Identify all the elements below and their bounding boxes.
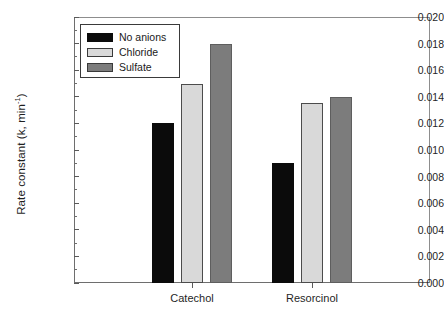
y-axis-label-close: ) — [15, 93, 27, 97]
y-tick-minor — [74, 30, 77, 31]
y-tick-major — [74, 17, 79, 18]
y-tick-label: 0.014 — [400, 91, 444, 103]
legend-item-1: Chloride — [87, 45, 173, 59]
x-tick — [312, 283, 313, 288]
figure-bar-chart: Rate constant (k, min-1) 0.0200.0180.016… — [0, 0, 444, 322]
legend-item-0: No anions — [87, 30, 173, 44]
y-tick-major — [74, 123, 79, 124]
y-tick-minor — [74, 136, 77, 137]
y-tick-major — [74, 203, 79, 204]
y-tick-minor — [74, 243, 77, 244]
legend-swatch-icon-chloride — [87, 48, 113, 57]
y-tick-label: 0.012 — [400, 117, 444, 129]
y-tick-label: 0.020 — [400, 11, 444, 23]
y-tick-major — [74, 70, 79, 71]
bar-catechol-sulfate — [210, 44, 232, 283]
y-tick-major — [74, 43, 79, 44]
legend: No anions Chloride Sulfate — [80, 24, 180, 78]
y-tick-major — [74, 283, 79, 284]
bar-catechol-chloride — [181, 84, 203, 284]
y-tick-label: 0.008 — [400, 171, 444, 183]
x-category-label-catechol: Catechol — [170, 292, 213, 304]
y-tick-minor — [74, 110, 77, 111]
y-tick-label: 0.018 — [400, 38, 444, 50]
bar-resorcinol-chloride — [301, 103, 323, 283]
x-tick — [192, 283, 193, 288]
y-tick-minor — [74, 83, 77, 84]
y-tick-label: 0.016 — [400, 64, 444, 76]
legend-label-chloride: Chloride — [119, 46, 158, 58]
x-category-label-resorcinol: Resorcinol — [286, 292, 338, 304]
y-tick-label: 0.000 — [400, 277, 444, 289]
y-tick-major — [74, 176, 79, 177]
bar-resorcinol-sulfate — [330, 97, 352, 283]
bar-resorcinol-no-anions — [272, 163, 294, 283]
legend-item-2: Sulfate — [87, 60, 173, 74]
y-tick-minor — [74, 189, 77, 190]
y-tick-major — [74, 96, 79, 97]
y-tick-label: 0.004 — [400, 224, 444, 236]
y-tick-minor — [74, 216, 77, 217]
bar-catechol-no-anions — [152, 123, 174, 283]
y-tick-minor — [74, 269, 77, 270]
y-axis-label: Rate constant (k, min-1) — [15, 49, 27, 259]
legend-label-sulfate: Sulfate — [119, 61, 152, 73]
y-axis-label-exponent: -1 — [13, 97, 22, 104]
y-tick-major — [74, 229, 79, 230]
y-tick-label: 0.002 — [400, 250, 444, 262]
y-tick-label: 0.006 — [400, 197, 444, 209]
y-axis-label-base: Rate constant (k, min — [15, 104, 27, 215]
legend-swatch-icon-sulfate — [87, 63, 113, 72]
legend-swatch-icon-no-anions — [87, 33, 113, 42]
y-tick-major — [74, 256, 79, 257]
y-tick-minor — [74, 163, 77, 164]
legend-label-no-anions: No anions — [119, 31, 166, 43]
y-tick-label: 0.010 — [400, 144, 444, 156]
y-tick-minor — [74, 56, 77, 57]
y-tick-major — [74, 150, 79, 151]
